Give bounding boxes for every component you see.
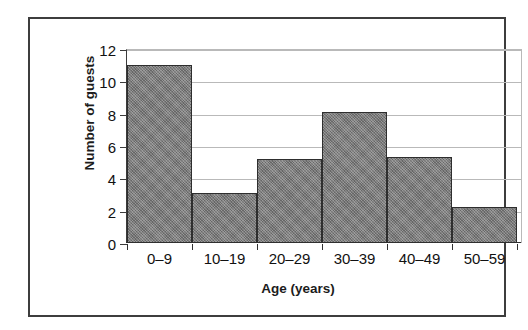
x-axis-tick-label: 40–49 (387, 250, 452, 267)
x-axis-baseline (126, 242, 521, 243)
figure-frame-border: Number of guests 024681012 0–910–1920–29… (28, 17, 506, 317)
bar (127, 65, 192, 243)
y-axis-tick-label: 10 (99, 75, 116, 90)
x-axis-tick-label: 50–59 (452, 250, 517, 267)
x-axis-title: Age (years) (98, 281, 498, 296)
y-axis-tick-mark (120, 244, 127, 245)
plot-area: 024681012 0–910–1920–2930–3940–4950–59 (97, 48, 523, 272)
y-axis-tick-label: 4 (108, 172, 116, 187)
y-axis-tick-mark (120, 179, 127, 180)
y-axis-tick-mark (120, 50, 127, 51)
x-axis-tick-label: 20–29 (257, 250, 322, 267)
x-axis-tick-mark (517, 244, 518, 250)
y-axis-tick-label: 8 (108, 107, 116, 122)
y-axis-tick-label: 0 (108, 237, 116, 252)
bar (452, 207, 517, 243)
bar (257, 159, 322, 243)
gridline (127, 50, 521, 51)
y-axis-tick-mark (120, 212, 127, 213)
bar (192, 193, 257, 243)
figure-canvas: Number of guests 024681012 0–910–1920–29… (0, 0, 528, 330)
y-axis-tick-label: 6 (108, 140, 116, 155)
bar (322, 112, 387, 243)
bar (387, 157, 452, 243)
x-axis-tick-label: 0–9 (127, 250, 192, 267)
y-axis-tick-mark (120, 82, 127, 83)
y-axis-tick-label: 12 (99, 43, 116, 58)
y-axis-tick-label: 2 (108, 204, 116, 219)
y-axis-tick-mark (120, 115, 127, 116)
axes-box: 024681012 0–910–1920–2930–3940–4950–59 (126, 49, 522, 243)
y-axis-tick-mark (120, 147, 127, 148)
x-axis-tick-label: 10–19 (192, 250, 257, 267)
x-axis-tick-label: 30–39 (322, 250, 387, 267)
